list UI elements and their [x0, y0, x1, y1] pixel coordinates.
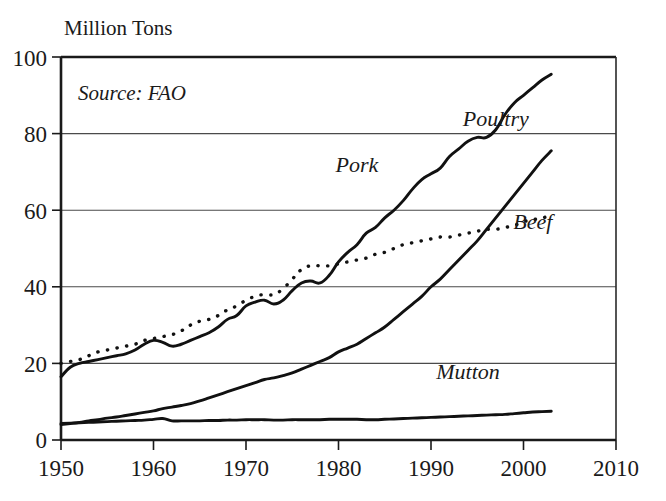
- chart-svg: Million Tons 0 20 40 60 80 100: [0, 0, 666, 501]
- xtick-label-2010: 2010: [593, 456, 639, 481]
- ytick-label-60: 60: [24, 199, 47, 224]
- xtick-label-1970: 1970: [223, 456, 269, 481]
- series-label-beef: Beef: [513, 209, 555, 234]
- xtick-label-2000: 2000: [501, 456, 547, 481]
- series-label-poultry: Poultry: [462, 106, 529, 131]
- series-label-pork: Pork: [335, 152, 380, 177]
- xtick-label-1960: 1960: [131, 456, 177, 481]
- source-note: Source: FAO: [78, 81, 186, 105]
- ytick-label-20: 20: [24, 352, 47, 377]
- chart-figure: Million Tons 0 20 40 60 80 100: [0, 0, 666, 501]
- xtick-label-1990: 1990: [408, 456, 454, 481]
- xtick-label-1980: 1980: [316, 456, 362, 481]
- series-label-mutton: Mutton: [435, 359, 500, 384]
- ytick-label-80: 80: [24, 122, 47, 147]
- ytick-label-100: 100: [13, 46, 48, 71]
- xtick-label-1950: 1950: [38, 456, 84, 481]
- ytick-label-40: 40: [24, 275, 47, 300]
- ytick-label-0: 0: [36, 428, 48, 453]
- series-path-beef: [61, 216, 551, 363]
- y-axis-title: Million Tons: [64, 16, 172, 40]
